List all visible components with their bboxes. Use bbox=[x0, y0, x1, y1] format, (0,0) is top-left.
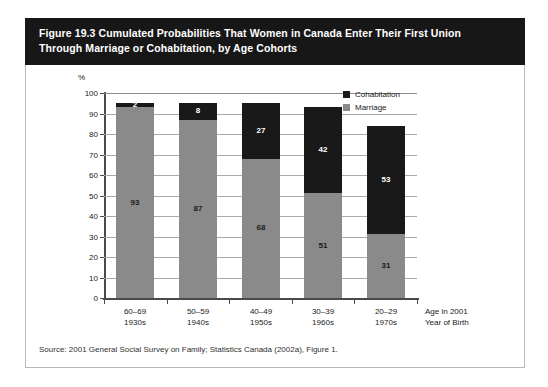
x-axis-category-label: 30–391960s bbox=[288, 306, 358, 328]
y-axis-tick-label: 50 bbox=[64, 192, 98, 201]
y-axis-tick-label: 100 bbox=[64, 89, 98, 98]
bar-segment-cohabitation: 27 bbox=[242, 103, 280, 158]
bar-segment-marriage: 93 bbox=[116, 107, 154, 298]
y-axis-tick-label: 60 bbox=[64, 171, 98, 180]
x-axis-tick-mark bbox=[292, 298, 293, 304]
y-axis-tick-label: 40 bbox=[64, 212, 98, 221]
bar-value-label-marriage: 93 bbox=[116, 199, 154, 207]
x-axis-category-decade: 1970s bbox=[351, 317, 421, 328]
y-axis-tick-label: 0 bbox=[64, 294, 98, 303]
x-axis-caption: Age in 2001 Year of Birth bbox=[425, 306, 469, 328]
legend-label-marriage: Marriage bbox=[355, 103, 387, 112]
chart-legend: Cohabitation Marriage bbox=[343, 89, 400, 115]
bar-value-label-marriage: 87 bbox=[179, 205, 217, 213]
x-axis-caption-line-1: Age in 2001 bbox=[425, 306, 469, 317]
bar-segment-cohabitation: 2 bbox=[116, 103, 154, 107]
x-axis-tick-mark bbox=[417, 298, 418, 304]
y-axis-tick-mark bbox=[100, 196, 104, 197]
bar-segment-marriage: 68 bbox=[242, 159, 280, 298]
bar-value-label-marriage: 68 bbox=[242, 224, 280, 232]
source-note: Source: 2001 General Social Survey on Fa… bbox=[25, 345, 525, 354]
y-axis-tick-mark bbox=[100, 134, 104, 135]
bar-value-label-cohabitation: 42 bbox=[304, 146, 342, 154]
chart-plot-container: % 0102030405060708090100 932878682751423… bbox=[25, 65, 525, 340]
bar-group: 932 bbox=[116, 93, 154, 298]
x-axis-category-decade: 1930s bbox=[100, 317, 170, 328]
y-axis-tick-mark bbox=[100, 278, 104, 279]
bar-value-label-cohabitation: 53 bbox=[367, 176, 405, 184]
figure-title-line-2: Through Marriage or Cohabitation, by Age… bbox=[39, 41, 511, 56]
bar-group: 6827 bbox=[242, 93, 280, 298]
y-axis-tick-mark bbox=[100, 175, 104, 176]
y-axis-tick-label: 70 bbox=[64, 151, 98, 160]
bar-value-label-marriage: 31 bbox=[367, 262, 405, 270]
legend-item-cohabitation: Cohabitation bbox=[343, 89, 400, 100]
bar-segment-marriage: 51 bbox=[304, 193, 342, 298]
x-axis-caption-line-2: Year of Birth bbox=[425, 317, 469, 328]
y-axis-tick-mark bbox=[100, 114, 104, 115]
x-axis-category-age: 60–69 bbox=[100, 306, 170, 317]
y-axis-tick-label: 30 bbox=[64, 233, 98, 242]
x-axis-category-age: 40–49 bbox=[226, 306, 296, 317]
x-axis-tick-mark bbox=[104, 298, 105, 304]
x-axis-tick-mark bbox=[167, 298, 168, 304]
bar-value-label-cohabitation: 27 bbox=[242, 127, 280, 135]
y-axis-tick-mark bbox=[100, 216, 104, 217]
y-axis-tick-mark bbox=[100, 257, 104, 258]
x-axis-category-decade: 1960s bbox=[288, 317, 358, 328]
bar-segment-marriage: 87 bbox=[179, 120, 217, 298]
bar-segment-cohabitation: 53 bbox=[367, 126, 405, 235]
bar-group: 3153 bbox=[367, 93, 405, 298]
legend-label-cohabitation: Cohabitation bbox=[355, 90, 400, 99]
figure-title-line-1: Figure 19.3 Cumulated Probabilities That… bbox=[39, 26, 511, 41]
legend-swatch-marriage-icon bbox=[343, 104, 350, 111]
x-axis-category-age: 20–29 bbox=[351, 306, 421, 317]
x-axis-category-label: 20–291970s bbox=[351, 306, 421, 328]
x-axis-category-decade: 1940s bbox=[163, 317, 233, 328]
figure-title-banner: Figure 19.3 Cumulated Probabilities That… bbox=[25, 18, 525, 65]
x-axis-tick-mark bbox=[229, 298, 230, 304]
source-divider bbox=[26, 337, 524, 338]
x-axis-line bbox=[103, 298, 419, 300]
y-axis-tick-label: 80 bbox=[64, 130, 98, 139]
legend-item-marriage: Marriage bbox=[343, 102, 400, 113]
x-axis-category-label: 40–491950s bbox=[226, 306, 296, 328]
bar-value-label-cohabitation: 8 bbox=[179, 107, 217, 115]
bar-value-label-cohabitation: 2 bbox=[116, 101, 154, 109]
x-axis-category-decade: 1950s bbox=[226, 317, 296, 328]
x-axis-tick-mark bbox=[354, 298, 355, 304]
bar-segment-marriage: 31 bbox=[367, 234, 405, 298]
bar-value-label-marriage: 51 bbox=[304, 242, 342, 250]
bar-group: 878 bbox=[179, 93, 217, 298]
y-axis-tick-mark bbox=[100, 237, 104, 238]
y-axis-tick-label: 10 bbox=[64, 274, 98, 283]
x-axis-category-age: 30–39 bbox=[288, 306, 358, 317]
bar-segment-cohabitation: 8 bbox=[179, 103, 217, 119]
bar-segment-cohabitation: 42 bbox=[304, 107, 342, 193]
y-axis-tick-mark bbox=[100, 155, 104, 156]
y-axis-tick-mark bbox=[100, 93, 104, 94]
x-axis-category-age: 50–59 bbox=[163, 306, 233, 317]
y-axis-tick-label: 20 bbox=[64, 253, 98, 262]
x-axis-category-label: 60–691930s bbox=[100, 306, 170, 328]
legend-swatch-cohabitation-icon bbox=[343, 91, 350, 98]
y-axis-tick-label: 90 bbox=[64, 110, 98, 119]
x-axis-category-label: 50–591940s bbox=[163, 306, 233, 328]
bar-group: 5142 bbox=[304, 93, 342, 298]
y-axis-unit-label: % bbox=[78, 73, 85, 82]
